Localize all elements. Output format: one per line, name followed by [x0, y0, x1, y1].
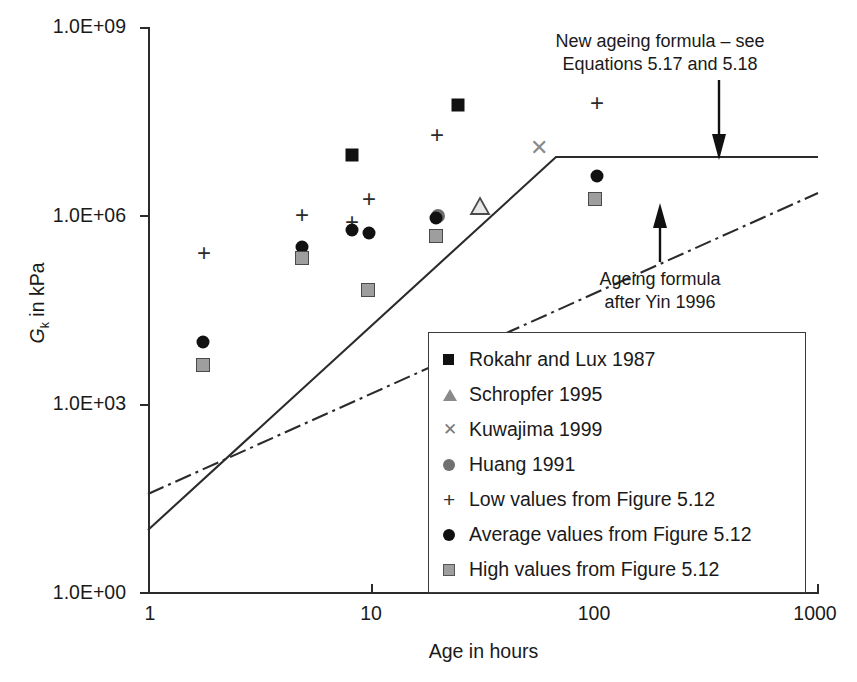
chart-figure: 1.0E+09 1.0E+06 1.0E+03 1.0E+00 1 10 100… [0, 0, 857, 682]
legend-item-low-values: + Low values from Figure 5.12 [443, 482, 805, 517]
point-low-6: + [590, 91, 604, 115]
y-axis-title-rest: in kPa [26, 262, 48, 322]
point-avg-5 [430, 212, 443, 225]
legend-marker-x-cross-icon: ✕ [443, 424, 469, 436]
legend-label-kuwajima: Kuwajima 1999 [469, 420, 602, 440]
legend-item-average-values: Average values from Figure 5.12 [443, 517, 805, 552]
x-tick-1000 [817, 584, 819, 593]
point-high-5 [588, 192, 602, 206]
x-tick-1 [148, 584, 150, 593]
y-axis-title: Gk in kPa [26, 228, 52, 378]
legend-label-average-values: Average values from Figure 5.12 [469, 525, 752, 545]
point-high-1 [196, 358, 210, 372]
y-tick-1e3 [140, 404, 149, 406]
legend-marker-open-triangle-icon [443, 389, 469, 401]
legend-marker-filled-circle-black-icon [443, 529, 469, 541]
x-tick-label-10: 10 [360, 604, 382, 624]
legend-label-low-values: Low values from Figure 5.12 [469, 490, 715, 510]
legend-item-schropfer: Schropfer 1995 [443, 377, 805, 412]
legend-item-rokahr-lux: Rokahr and Lux 1987 [443, 342, 805, 377]
point-kuwajima-1: ✕ [530, 136, 548, 160]
legend: Rokahr and Lux 1987 Schropfer 1995 ✕ Kuw… [428, 332, 806, 593]
arrow-new-ageing-head [712, 134, 726, 160]
y-tick-label-1e0: 1.0E+00 [30, 583, 126, 603]
point-rokahr-lux-2 [452, 99, 465, 112]
legend-label-huang: Huang 1991 [469, 455, 575, 475]
legend-marker-plus-icon: + [443, 493, 469, 507]
point-low-4: + [362, 187, 376, 211]
point-low-2: + [295, 203, 309, 227]
x-tick-label-1000: 1000 [793, 604, 836, 624]
y-tick-label-1e6: 1.0E+06 [30, 206, 126, 226]
y-tick-label-1e9: 1.0E+09 [30, 17, 126, 37]
legend-marker-filled-square-black-icon [443, 354, 469, 365]
legend-item-high-values: High values from Figure 5.12 [443, 552, 805, 587]
point-high-2 [295, 251, 309, 265]
point-rokahr-lux-1 [346, 149, 359, 162]
point-schropfer-1 [471, 198, 489, 214]
y-tick-1e9 [140, 27, 149, 29]
legend-item-kuwajima: ✕ Kuwajima 1999 [443, 412, 805, 447]
y-axis-line [148, 27, 150, 593]
point-low-1: + [197, 241, 211, 265]
legend-marker-filled-square-grey-icon [443, 564, 469, 576]
annotation-new-ageing-formula: New ageing formula – see Equations 5.17 … [500, 30, 820, 76]
y-tick-label-1e3: 1.0E+03 [30, 394, 126, 414]
point-avg-3 [346, 224, 359, 237]
y-tick-1e6 [140, 215, 149, 217]
point-low-5: + [430, 123, 444, 147]
legend-label-schropfer: Schropfer 1995 [469, 385, 602, 405]
x-tick-label-1: 1 [145, 604, 156, 624]
x-axis-title: Age in hours [148, 640, 819, 663]
legend-label-rokahr-lux: Rokahr and Lux 1987 [469, 350, 655, 370]
point-avg-4 [363, 227, 376, 240]
y-axis-title-symbol: G [26, 328, 48, 343]
x-tick-label-100: 100 [578, 604, 611, 624]
legend-marker-filled-circle-grey-icon [443, 459, 469, 471]
x-tick-10 [371, 584, 373, 593]
point-avg-1 [197, 336, 210, 349]
legend-label-high-values: High values from Figure 5.12 [469, 560, 719, 580]
legend-item-huang: Huang 1991 [443, 447, 805, 482]
y-axis-title-subscript: k [38, 322, 52, 328]
point-high-3 [361, 283, 375, 297]
point-avg-6 [591, 170, 604, 183]
arrow-yin-head [653, 203, 667, 228]
point-high-4 [429, 229, 443, 243]
annotation-yin-formula: Ageing formula after Yin 1996 [560, 268, 760, 314]
